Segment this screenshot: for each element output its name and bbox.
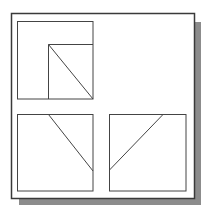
diagram-canvas [0, 0, 212, 219]
outer-frame [12, 14, 195, 199]
